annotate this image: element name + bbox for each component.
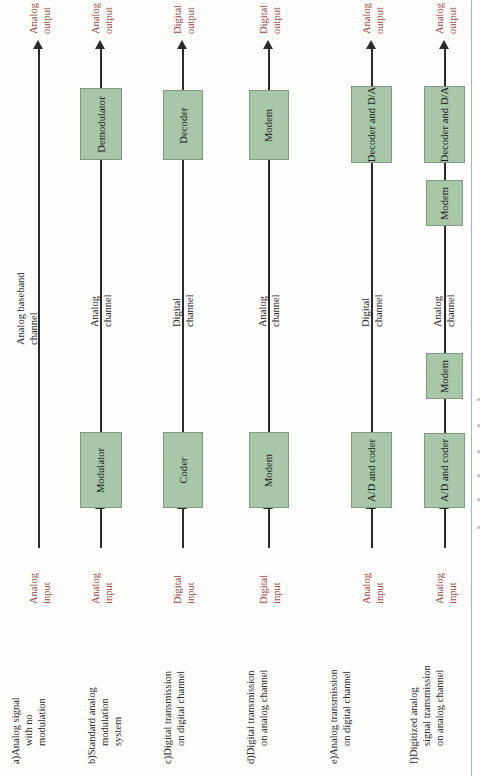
scan-dot-artifacts [477,398,485,548]
caption-d-line-1: d)Digital transmission [244,670,257,764]
caption-e-line-2: on digital channel [340,669,353,764]
chain-e-output-line-1: Analog [360,3,373,34]
chain-e-output-label: Analog output [360,3,386,34]
chain-d: Modem Modem Digital output Analog channe… [235,0,315,80]
caption-f-line-2: signal transmission [420,665,433,764]
caption-e-tag: e) [328,756,339,764]
chain-b-output-label: Analog output [89,3,115,34]
box-modem-receive-label: Modem [263,108,274,141]
chain-f-trunk-seg-5 [444,508,446,548]
caption-a-line-2: with no [22,697,35,764]
chain-e-channel-label: Digital channel [359,294,385,327]
caption-e: e)Analog transmission on digital channel [327,669,353,764]
chain-c-trunk-upper [182,48,184,90]
caption-b-line-1: b)Standard analog [85,687,98,764]
caption-a-text-1: Analog signal [10,697,21,756]
caption-a-tag: a) [10,756,21,764]
caption-d-text-1: Digital transmission [245,670,256,755]
chain-c-output-label: Digital output [171,5,197,34]
chain-a-output-arrow [33,40,43,49]
chain-d-input-line-2: input [270,575,283,604]
caption-f: f)Digitized analog signal transmission o… [407,665,446,764]
chain-b-output-arrow [95,40,105,49]
chain-a-channel-line-1: Analog baseband [14,272,27,345]
chain-f-input-line-1: Analog [433,573,446,604]
caption-c-line-2: on digital channel [174,671,187,764]
box-f-modem-transmit-label: Modem [439,359,450,392]
chain-b-channel-label: Analog channel [88,294,114,327]
chain-f-channel-line-1: Analog [431,294,444,327]
box-coder-label: Coder [177,457,188,483]
caption-b-line-2: modulation [98,687,111,764]
chain-a-channel-label: Analog baseband channel [14,272,40,345]
chain-e-input-line-1: Analog [360,573,373,604]
chain-e-trunk-lower [371,508,373,548]
caption-c-line-1: c)Digital transmission [161,671,174,764]
chain-c-output-arrow [177,40,187,49]
chain-f-input-label: Analog input [433,573,459,604]
chain-d-channel-line-2: channel [269,294,282,327]
page-edge-line [471,0,472,776]
page-margin [474,0,489,776]
chain-f-output-label: Analog output [433,3,459,34]
box-f-decoder-and-da-label: Decoder and D/A [439,87,450,163]
chain-b-input-label: Analog input [89,573,115,604]
chain-b-trunk-upper [100,48,102,92]
chain-d-trunk-lower [268,508,270,548]
box-f-ad-and-coder-label: A/D and coder [439,439,450,502]
box-f-ad-and-coder: A/D and coder [424,433,465,508]
caption-a-line-1: a)Analog signal [9,697,22,764]
box-f-modem-receive: Modem [426,180,463,226]
chain-e-output-line-2: output [373,3,386,34]
chain-f-output-line-2: output [446,3,459,34]
chain-f-input-line-2: input [446,573,459,604]
chain-d-output-arrow [263,40,273,49]
chain-d-channel-line-1: Analog [256,294,269,327]
chain-b-channel-line-1: Analog [88,294,101,327]
chain-a: Analog output Analog baseband channel An… [0,0,80,80]
caption-d-line-2: on analog channel [257,670,270,764]
chain-c: Decoder Coder Digital output Digital cha… [152,0,232,80]
chain-a-output-line-2: output [40,3,53,34]
chain-c-input-label: Digital input [171,575,197,604]
chain-f: Decoder and D/A Modem Modem A/D and code… [398,0,478,80]
box-decoder-and-da: Decoder and D/A [351,86,392,163]
chain-c-channel-line-1: Digital [170,294,183,327]
caption-b: b)Standard analog modulation system [85,687,124,764]
box-demodulator: Demodulator [80,88,122,160]
chain-b: Demodulator Modulator Analog output Anal… [76,0,156,80]
box-ad-and-coder: A/D and coder [351,432,392,508]
chain-e-output-arrow [366,40,376,49]
chain-f-output-line-1: Analog [433,3,446,34]
caption-e-text-1: Analog transmission [328,669,339,756]
chain-c-output-line-1: Digital [171,5,184,34]
caption-b-text-1: Standard analog [86,687,97,755]
chain-a-input-line-2: input [40,573,53,604]
chain-f-channel-line-2: channel [444,294,457,327]
chain-b-input-line-2: input [102,573,115,604]
caption-b-line-3: system [111,687,124,764]
chain-e-trunk-upper [371,48,373,86]
caption-c-text-1: Digital transmission [162,671,173,756]
chain-f-trunk-seg-4 [444,399,446,433]
chain-d-output-label: Digital output [257,5,283,34]
chain-a-input-label: Analog input [27,573,53,604]
chain-a-output-line-1: Analog [27,3,40,34]
caption-e-line-1: e)Analog transmission [327,669,340,764]
chain-c-input-line-1: Digital [171,575,184,604]
chain-c-trunk-lower [182,508,184,548]
box-decoder-label: Decoder [177,107,188,143]
chain-d-trunk-upper [268,48,270,90]
box-f-modem-receive-label: Modem [439,186,450,219]
chain-b-input-line-1: Analog [89,573,102,604]
box-modulator-label: Modulator [96,447,107,492]
chain-e-input-line-2: input [373,573,386,604]
chain-f-output-arrow [439,40,449,49]
chain-c-channel-label: Digital channel [170,294,196,327]
chain-f-channel-label: Analog channel [431,294,457,327]
chain-a-channel-line-2: channel [27,272,40,345]
box-f-decoder-and-da: Decoder and D/A [424,86,465,163]
chain-e-input-label: Analog input [360,573,386,604]
caption-b-tag: b) [86,755,97,764]
box-modem-transmit-label: Modem [263,453,274,486]
